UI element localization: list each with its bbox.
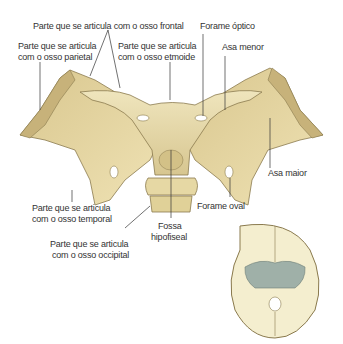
label-parietal-line2: com o osso parietal: [18, 52, 92, 63]
label-frontal: Parte que se articula com o osso frontal: [33, 21, 184, 32]
label-lesser-wing: Asa menor: [222, 42, 264, 53]
label-occipital-line2: com o osso occipital: [52, 250, 129, 261]
label-occipital-line1: Parte que se articula: [50, 239, 128, 250]
label-parietal-line1: Parte que se articula: [18, 41, 96, 52]
label-temporal-line1: Parte que se articula: [32, 203, 110, 214]
left-greater-wing: [20, 70, 160, 205]
label-optic-foramen: Forame óptico: [200, 21, 255, 32]
label-temporal-line2: com o osso temporal: [32, 214, 112, 225]
label-etmoide-line2: com o osso etmoide: [118, 52, 195, 63]
label-fossa-line2: hipofiseal: [151, 232, 187, 243]
label-etmoide-line1: Parte que se articula: [118, 41, 196, 52]
left-optic-foramen: [137, 115, 149, 121]
label-greater-wing: Asa maior: [268, 168, 307, 179]
right-optic-foramen: [195, 115, 207, 121]
label-foramen-ovale: Forame oval: [197, 201, 245, 212]
label-fossa-line1: Fossa: [158, 221, 182, 232]
right-greater-wing: [185, 68, 323, 205]
skull-base-inset: [231, 224, 319, 338]
left-foramen-ovale: [110, 166, 118, 178]
right-foramen-ovale: [225, 166, 233, 178]
